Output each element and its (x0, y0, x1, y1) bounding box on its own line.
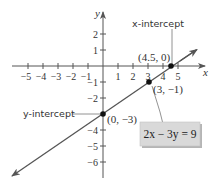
y-tick-label: −4 (87, 125, 98, 136)
x-tick-label: −4 (36, 71, 47, 82)
y-tick-label: 2 (93, 29, 98, 40)
y-tick-label: −2 (87, 93, 98, 104)
point-3-neg1 (146, 79, 152, 85)
x-tick-label: −5 (21, 71, 32, 82)
y-tick-label: −1 (87, 77, 98, 88)
y-tick-label: 1 (93, 45, 98, 56)
y-tick-labels: 2 1 −1 −2 −4 −5 −6 (87, 29, 98, 168)
x-intercept-label: x-intercept (132, 18, 184, 29)
graph-line-arrow-up (180, 50, 197, 62)
point-label-3-neg1: (3, −1) (153, 83, 183, 96)
point-x-intercept (168, 63, 174, 69)
x-tick-label: 2 (131, 71, 136, 82)
x-tick-label: −3 (51, 71, 62, 82)
x-axis-label: x (202, 66, 208, 78)
y-intercept-label: y-intercept (23, 108, 75, 119)
x-tick-label: −2 (66, 71, 77, 82)
point-y-intercept (100, 111, 106, 117)
y-tick-label: −5 (87, 141, 98, 152)
x-tick-label: 5 (176, 71, 181, 82)
y-axis-label: y (94, 7, 100, 19)
equation-label: 2x − 3y = 9 (143, 128, 196, 141)
x-tick-label: 1 (116, 71, 121, 82)
point-label-x-intercept: (4.5, 0) (138, 51, 170, 64)
point-label-y-intercept: (0, −3) (107, 113, 137, 126)
y-tick-label: −6 (87, 157, 98, 168)
coordinate-graph: −5 −4 −3 −2 −1 1 2 3 4 5 2 1 −1 −2 −4 −5… (0, 0, 213, 189)
